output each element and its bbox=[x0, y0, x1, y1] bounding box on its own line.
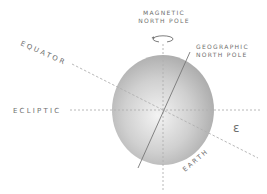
equator-label: EQUATOR bbox=[19, 40, 67, 67]
magnetic-north-pole-label-line2: NORTH POLE bbox=[138, 17, 190, 24]
obliquity-symbol: ε bbox=[233, 121, 240, 135]
geographic-north-pole-label-line2: NORTH POLE bbox=[196, 51, 248, 58]
earth-axis-diagram: MAGNETIC NORTH POLE GEOGRAPHIC NORTH POL… bbox=[0, 0, 267, 194]
magnetic-north-pole-label-line1: MAGNETIC bbox=[143, 9, 185, 16]
geographic-north-pole-label-line1: GEOGRAPHIC bbox=[196, 43, 249, 50]
rotation-arrow-icon bbox=[152, 36, 174, 43]
ecliptic-label: ECLIPTIC bbox=[13, 107, 61, 115]
